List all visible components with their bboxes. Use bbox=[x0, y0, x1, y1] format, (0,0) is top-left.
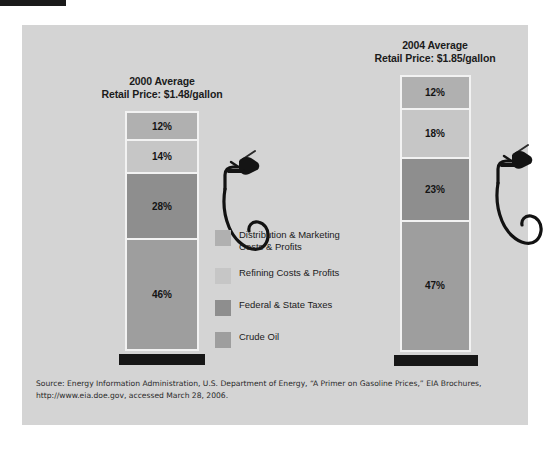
chart-2004-base bbox=[394, 355, 478, 366]
chart-2004: 2004 Average Retail Price: $1.85/gallon … bbox=[355, 39, 515, 366]
chart-2000-title: 2000 Average Retail Price: $1.48/gallon bbox=[82, 75, 242, 101]
legend: Distribution & Marketing Costs & Profits… bbox=[215, 229, 365, 363]
chart-2000-title-line2: Retail Price: $1.48/gallon bbox=[82, 88, 242, 101]
chart-2000-bar-wrap: 12%14%28%46% bbox=[125, 111, 199, 365]
legend-item-label: Refining Costs & Profits bbox=[239, 267, 339, 279]
bar-segment-12pct: 12% bbox=[402, 77, 469, 110]
chart-2004-stacked-bar: 12%18%23%47% bbox=[400, 75, 471, 352]
chart-2000-base bbox=[119, 354, 205, 365]
legend-item-label: Distribution & Marketing Costs & Profits bbox=[239, 229, 340, 252]
source-line-2: http://www.eia.doe.gov, accessed March 2… bbox=[36, 390, 518, 402]
top-black-rule bbox=[0, 0, 66, 6]
legend-item: Federal & State Taxes bbox=[215, 299, 365, 316]
legend-item: Distribution & Marketing Costs & Profits bbox=[215, 229, 365, 252]
bar-segment-label: 28% bbox=[152, 201, 172, 212]
bar-segment-label: 18% bbox=[425, 128, 445, 139]
chart-2004-title-line2: Retail Price: $1.85/gallon bbox=[355, 52, 515, 65]
bar-segment-12pct: 12% bbox=[127, 113, 197, 141]
legend-item-label: Federal & State Taxes bbox=[239, 299, 332, 311]
legend-item: Refining Costs & Profits bbox=[215, 267, 365, 284]
chart-2000-title-line1: 2000 Average bbox=[129, 75, 195, 87]
bar-segment-label: 23% bbox=[425, 184, 445, 195]
legend-swatch-icon bbox=[215, 300, 231, 316]
chart-2004-title-line1: 2004 Average bbox=[402, 39, 468, 51]
legend-swatch-icon bbox=[215, 268, 231, 284]
bar-segment-47pct: 47% bbox=[402, 222, 469, 350]
chart-2004-bar-wrap: 12%18%23%47% bbox=[400, 75, 471, 366]
source-line-1: Source: Energy Information Administratio… bbox=[36, 378, 518, 390]
source-note: Source: Energy Information Administratio… bbox=[36, 378, 518, 401]
bar-segment-label: 14% bbox=[152, 151, 172, 162]
legend-swatch-icon bbox=[215, 332, 231, 348]
bar-segment-46pct: 46% bbox=[127, 240, 197, 349]
chart-2000-stacked-bar: 12%14%28%46% bbox=[125, 111, 199, 351]
gas-pump-nozzle-icon bbox=[494, 143, 554, 259]
legend-swatch-icon bbox=[215, 230, 231, 246]
bar-segment-label: 12% bbox=[152, 121, 172, 132]
bar-segment-23pct: 23% bbox=[402, 159, 469, 222]
bar-segment-18pct: 18% bbox=[402, 110, 469, 159]
figure-panel: 2000 Average Retail Price: $1.48/gallon … bbox=[22, 25, 528, 425]
bar-segment-28pct: 28% bbox=[127, 174, 197, 240]
legend-item-label: Crude Oil bbox=[239, 331, 279, 343]
bar-segment-label: 12% bbox=[425, 87, 445, 98]
bar-segment-14pct: 14% bbox=[127, 141, 197, 174]
bar-segment-label: 46% bbox=[152, 289, 172, 300]
bar-segment-label: 47% bbox=[425, 280, 445, 291]
chart-2004-title: 2004 Average Retail Price: $1.85/gallon bbox=[355, 39, 515, 65]
legend-item: Crude Oil bbox=[215, 331, 365, 348]
